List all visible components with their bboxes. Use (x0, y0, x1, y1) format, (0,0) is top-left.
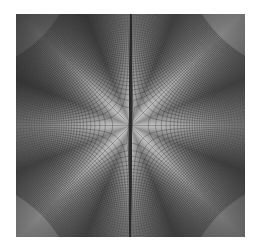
grid-lines (16, 14, 245, 237)
conformal-map-image (16, 14, 245, 237)
